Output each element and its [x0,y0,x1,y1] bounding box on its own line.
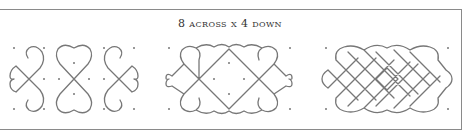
panel-component-motifs [10,45,138,113]
kolam-diagrams [0,0,467,136]
left-loop-motif [10,47,44,112]
right-loop-motif [104,47,138,112]
panel-fully-woven [322,45,452,112]
woven-band [166,45,292,114]
woven-lattice [322,45,452,112]
double-heart-motif [56,45,91,113]
grid-dots [168,47,291,110]
grid-dots [325,47,449,110]
panel-partially-woven [166,45,292,114]
